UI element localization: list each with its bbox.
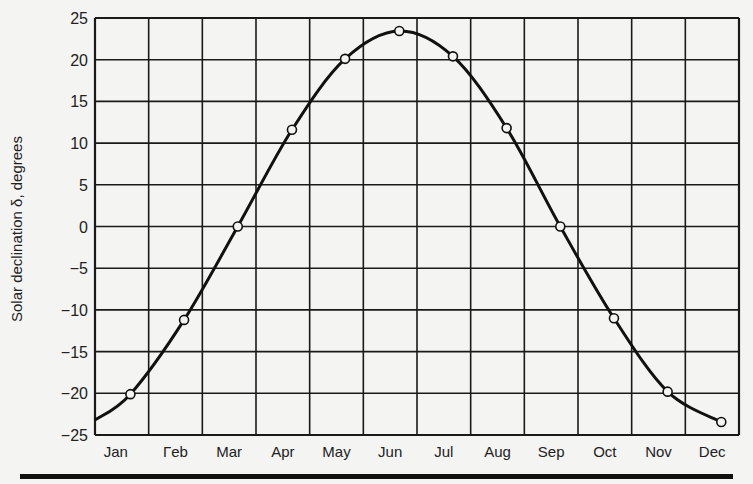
y-tick-label: 20 xyxy=(70,52,88,69)
x-tick-label: Jul xyxy=(434,443,453,460)
y-tick-label: 10 xyxy=(70,135,88,152)
x-tick-label: Jun xyxy=(378,443,402,460)
x-tick-label: Mar xyxy=(216,443,242,460)
x-tick-label: Dec xyxy=(699,443,726,460)
x-axis-ticks: JanГebMarAprMayJunJulAugSepOctNovDec xyxy=(104,443,726,460)
x-tick-label: Aug xyxy=(484,443,511,460)
data-point-marker xyxy=(233,222,242,231)
x-tick-label: Oct xyxy=(593,443,617,460)
data-point-marker xyxy=(502,124,511,133)
y-tick-label: 15 xyxy=(70,93,88,110)
solar-declination-chart: 2520151050−5−10−15−20−25 JanГebMarAprMay… xyxy=(0,0,753,484)
x-tick-label: Sep xyxy=(538,443,565,460)
y-tick-label: 0 xyxy=(79,219,88,236)
x-tick-label: Гeb xyxy=(163,443,188,460)
y-tick-label: 25 xyxy=(70,10,88,27)
grid xyxy=(95,18,739,435)
data-point-marker xyxy=(341,54,350,63)
data-point-marker xyxy=(126,390,135,399)
bottom-rule xyxy=(20,474,733,479)
data-point-marker xyxy=(717,418,726,427)
y-tick-label: −10 xyxy=(61,302,88,319)
data-point-marker xyxy=(448,52,457,61)
data-point-marker xyxy=(180,315,189,324)
y-tick-label: −15 xyxy=(61,344,88,361)
data-point-marker xyxy=(556,222,565,231)
y-axis-label: Solar declination δ, degrees xyxy=(8,136,25,322)
x-tick-label: Nov xyxy=(645,443,672,460)
y-tick-label: 5 xyxy=(79,177,88,194)
data-point-marker xyxy=(395,26,404,35)
x-tick-label: Jan xyxy=(104,443,128,460)
data-point-marker xyxy=(609,314,618,323)
y-axis-ticks: 2520151050−5−10−15−20−25 xyxy=(61,10,88,444)
x-tick-label: May xyxy=(322,443,351,460)
y-tick-label: −5 xyxy=(70,260,88,277)
y-tick-label: −25 xyxy=(61,427,88,444)
data-point-marker xyxy=(663,387,672,396)
y-tick-label: −20 xyxy=(61,385,88,402)
data-point-marker xyxy=(287,125,296,134)
x-tick-label: Apr xyxy=(271,443,294,460)
